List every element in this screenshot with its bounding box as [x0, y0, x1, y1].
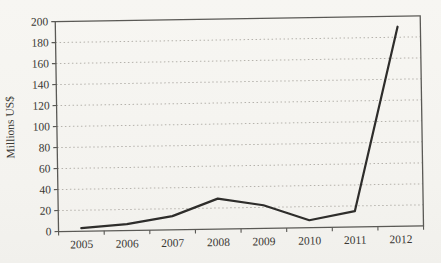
- x-tick-label: 2006: [116, 237, 139, 249]
- y-tick-label: 0: [46, 225, 52, 237]
- plot-border: [55, 16, 423, 232]
- gridline: [57, 100, 422, 106]
- y-tick-label: 20: [40, 204, 52, 216]
- gridline: [58, 205, 423, 211]
- x-tick-label: 2012: [389, 233, 412, 245]
- line-chart: Millions US$ 020406080100120140160180200…: [0, 0, 441, 263]
- x-tick-label: 2007: [161, 237, 184, 249]
- y-tick-label: 140: [32, 78, 50, 90]
- gridline: [57, 121, 422, 127]
- y-tick-label: 60: [39, 162, 51, 174]
- data-line: [78, 27, 400, 228]
- x-tick-label: 2005: [70, 238, 93, 250]
- gridline: [56, 79, 421, 85]
- y-tick-label: 120: [32, 99, 50, 111]
- gridline: [58, 163, 423, 169]
- gridline: [56, 37, 421, 43]
- scanned-page: Millions US$ 020406080100120140160180200…: [0, 0, 441, 263]
- y-tick-label: 80: [39, 141, 51, 153]
- gridline: [58, 184, 423, 190]
- y-tick-label: 160: [32, 57, 50, 69]
- gridline: [57, 142, 422, 148]
- y-axis-title: Millions US$: [3, 96, 16, 159]
- y-tick-label: 100: [33, 120, 51, 132]
- y-tick-label: 180: [31, 36, 49, 48]
- x-tick-label: 2011: [344, 234, 367, 246]
- x-tick-label: 2009: [252, 235, 275, 247]
- x-tick-label: 2010: [298, 234, 321, 246]
- x-tick-label: 2008: [207, 236, 230, 248]
- y-tick-label: 200: [31, 15, 49, 27]
- y-tick-label: 40: [39, 183, 51, 195]
- gridline: [56, 58, 421, 64]
